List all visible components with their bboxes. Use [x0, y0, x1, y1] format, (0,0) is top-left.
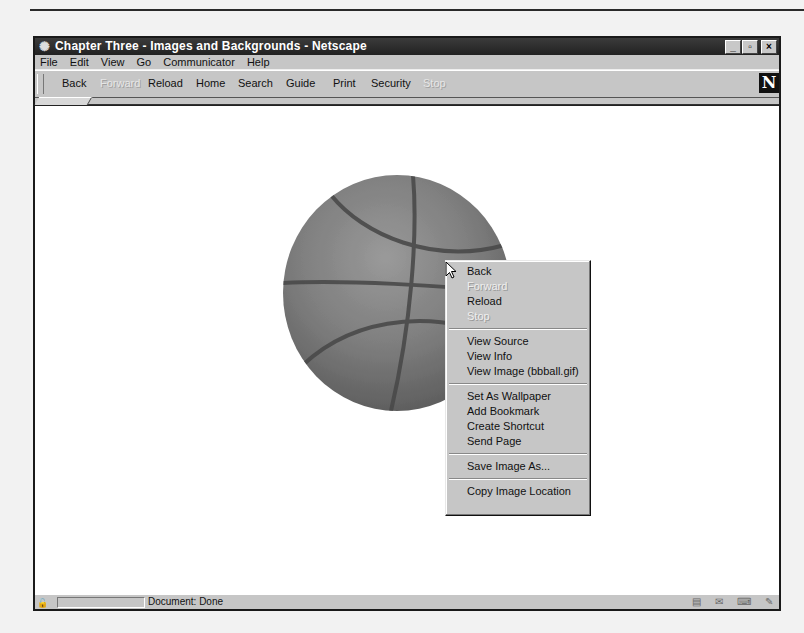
mouse-pointer-icon — [445, 261, 457, 280]
context-menu-view-image[interactable]: View Image (bbball.gif) — [467, 364, 579, 378]
context-menu: Back Forward Reload Stop View Source Vie… — [445, 260, 591, 516]
menu-bar: File Edit View Go Communicator Help — [35, 55, 779, 70]
context-menu-send-page[interactable]: Send Page — [467, 434, 521, 448]
component-bar: ▤ ✉ ⌨ ✎ — [692, 595, 773, 609]
menu-separator — [449, 453, 587, 455]
minimize-button[interactable]: _ — [725, 40, 741, 54]
context-menu-create-shortcut[interactable]: Create Shortcut — [467, 419, 544, 433]
home-button[interactable]: Home — [196, 77, 225, 89]
search-button[interactable]: Search — [238, 77, 273, 89]
context-menu-copy-image-location[interactable]: Copy Image Location — [467, 484, 571, 498]
netscape-app-icon[interactable]: ✺ — [37, 39, 52, 54]
context-menu-save-image-as[interactable]: Save Image As... — [467, 459, 550, 473]
print-button[interactable]: Print — [333, 77, 356, 89]
close-button[interactable]: × — [761, 40, 777, 54]
browser-window: ✺ Chapter Three - Images and Backgrounds… — [33, 36, 781, 611]
maximize-button[interactable]: ▫ — [742, 40, 758, 54]
menu-separator — [449, 478, 587, 480]
security-button[interactable]: Security — [371, 77, 411, 89]
forward-button[interactable]: Forward — [100, 77, 140, 89]
page-rule — [30, 9, 804, 11]
menu-file[interactable]: File — [40, 55, 58, 69]
menu-view[interactable]: View — [101, 55, 125, 69]
stop-button[interactable]: Stop — [423, 77, 446, 89]
composer-icon[interactable]: ✎ — [765, 595, 773, 609]
toolbar-grip-handle[interactable] — [37, 74, 44, 94]
context-menu-add-bookmark[interactable]: Add Bookmark — [467, 404, 539, 418]
context-menu-forward[interactable]: Forward — [467, 279, 507, 293]
guide-button[interactable]: Guide — [286, 77, 315, 89]
window-title: Chapter Three - Images and Backgrounds -… — [55, 38, 367, 55]
context-menu-view-source[interactable]: View Source — [467, 334, 529, 348]
menu-communicator[interactable]: Communicator — [163, 55, 235, 69]
reload-button[interactable]: Reload — [148, 77, 183, 89]
navigator-icon[interactable]: ▤ — [692, 595, 701, 609]
context-menu-back[interactable]: Back — [467, 264, 491, 278]
page-content — [35, 105, 779, 595]
status-bar: 🔓 Document: Done ▤ ✉ ⌨ ✎ — [35, 594, 779, 609]
status-text: Document: Done — [148, 595, 223, 609]
discussion-icon[interactable]: ⌨ — [737, 595, 751, 609]
back-button[interactable]: Back — [62, 77, 86, 89]
security-lock-icon[interactable]: 🔓 — [37, 596, 53, 608]
context-menu-set-as-wallpaper[interactable]: Set As Wallpaper — [467, 389, 551, 403]
progress-bar — [57, 597, 145, 608]
collapsed-toolbar-tabs — [35, 97, 779, 105]
title-bar[interactable]: ✺ Chapter Three - Images and Backgrounds… — [35, 38, 779, 55]
navigation-toolbar: Back Forward Reload Home Search Guide Pr… — [35, 70, 779, 98]
context-menu-view-info[interactable]: View Info — [467, 349, 512, 363]
context-menu-stop[interactable]: Stop — [467, 309, 490, 323]
menu-separator — [449, 328, 587, 330]
netscape-throbber-icon[interactable]: N — [759, 73, 779, 93]
menu-edit[interactable]: Edit — [70, 55, 89, 69]
collapsed-toolbar-tab[interactable] — [35, 97, 93, 105]
mail-icon[interactable]: ✉ — [715, 595, 723, 609]
menu-go[interactable]: Go — [137, 55, 152, 69]
context-menu-reload[interactable]: Reload — [467, 294, 502, 308]
menu-help[interactable]: Help — [247, 55, 270, 69]
menu-separator — [449, 383, 587, 385]
